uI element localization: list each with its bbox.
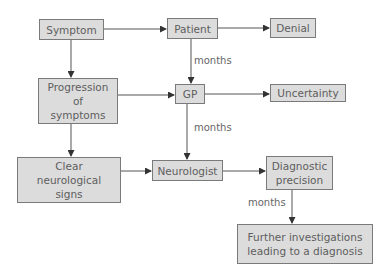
node-clear-neurological-signs: Clear neurological signs [17, 157, 121, 203]
edge-label-diagnostic-further: months [248, 197, 286, 208]
node-neurologist: Neurologist [152, 160, 223, 181]
node-denial: Denial [270, 18, 316, 38]
node-further-investigations: Further investigations leading to a diag… [237, 224, 373, 264]
node-symptom: Symptom [39, 19, 104, 40]
edge-label-patient-gp: months [194, 55, 232, 66]
node-uncertainty: Uncertainty [270, 84, 346, 102]
node-progression: Progression of symptoms [38, 78, 118, 124]
node-diagnostic-precision: Diagnostic precision [266, 156, 333, 190]
node-gp: GP [175, 84, 205, 104]
edge-label-gp-neurologist: months [194, 122, 232, 133]
node-patient: Patient [167, 18, 218, 39]
